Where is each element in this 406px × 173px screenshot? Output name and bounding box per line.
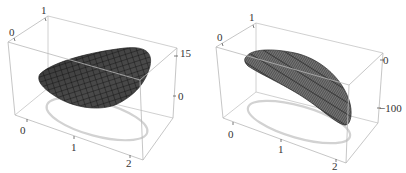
surface-plot-left-canvas: 0 1 0 1 2 15 0 <box>0 0 203 173</box>
surface-plot-right-canvas: 0 1 0 1 2 0 −100 <box>203 0 406 173</box>
x-tick-label-1: 1 <box>71 141 77 153</box>
z-tick-label-low: −100 <box>379 102 402 114</box>
x-tick-label-1: 1 <box>278 143 284 155</box>
y-tick-label-1: 1 <box>41 4 47 16</box>
y-tick-label-1: 1 <box>249 11 255 23</box>
y-tick-label-0: 0 <box>217 31 223 43</box>
x-tick-label-2: 2 <box>332 160 338 172</box>
x-tick-label-0: 0 <box>228 128 234 140</box>
z-tick-label-low: 0 <box>178 90 184 102</box>
surface-plot-right: 0 1 0 1 2 0 −100 <box>203 0 406 173</box>
x-tick-label-0: 0 <box>20 124 26 136</box>
z-tick-label-high: 15 <box>180 47 192 59</box>
x-tick-label-2: 2 <box>126 157 132 169</box>
y-tick-label-0: 0 <box>9 26 15 38</box>
surface-plot-left: 0 1 0 1 2 15 0 <box>0 0 203 173</box>
z-tick-label-high: 0 <box>383 54 389 66</box>
surface-mesh <box>245 50 351 125</box>
